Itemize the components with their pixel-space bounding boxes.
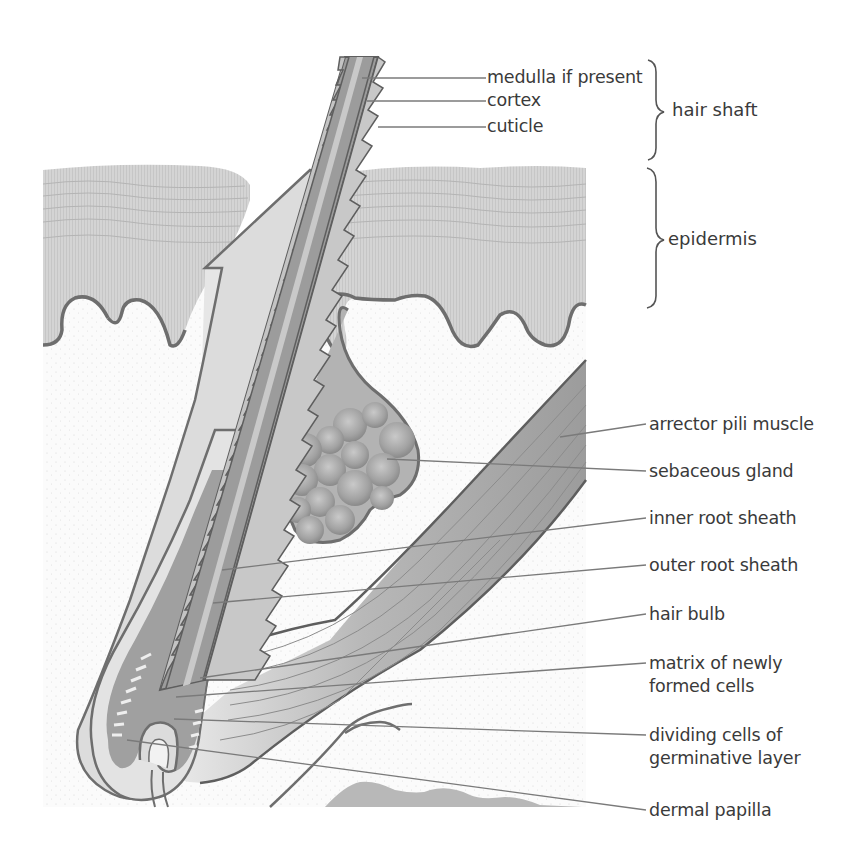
label-sebaceous-gland: sebaceous gland [649,460,793,482]
epidermis-brace [647,168,664,308]
group-label-hair-shaft: hair shaft [672,99,757,120]
label-hair-bulb: hair bulb [649,603,725,625]
label-matrix-line2: formed cells [649,675,782,698]
label-dividing-cells: dividing cells of germinative layer [649,724,800,770]
label-matrix-line1: matrix of newly [649,652,782,675]
label-cuticle: cuticle [487,115,543,137]
label-arrector-pili-muscle: arrector pili muscle [649,413,814,435]
label-cortex: cortex [487,89,541,111]
label-outer-root-sheath: outer root sheath [649,554,798,576]
label-dividing-line1: dividing cells of [649,724,800,747]
braces [647,60,664,308]
label-medulla: medulla if present [487,66,643,88]
label-dermal-papilla: dermal papilla [649,799,771,821]
label-inner-root-sheath: inner root sheath [649,507,796,529]
label-dividing-line2: germinative layer [649,747,800,770]
hair-shaft-brace [648,60,664,160]
label-matrix: matrix of newly formed cells [649,652,782,698]
group-label-epidermis: epidermis [668,228,757,249]
